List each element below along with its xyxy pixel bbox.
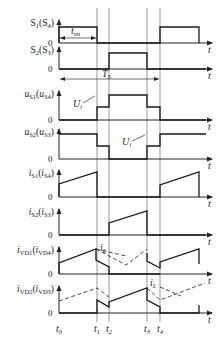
- y-axis-arrow-icon: [57, 128, 62, 134]
- y-axis-arrow-icon: [57, 285, 62, 291]
- time-marker-lines: [97, 8, 160, 322]
- time-label-t2: t2: [106, 323, 113, 335]
- il-label: iL: [150, 277, 157, 289]
- time-label-t4: t4: [157, 323, 164, 335]
- il-label: iL: [100, 242, 107, 254]
- time-axis-label: t: [208, 275, 211, 286]
- y-axis-arrow-icon: [57, 246, 62, 252]
- trace-label: iS2(iS3): [29, 207, 54, 218]
- trace-label: iS1(iS4): [29, 168, 54, 179]
- time-axis-label: t: [208, 314, 211, 325]
- waveforms: [59, 27, 206, 313]
- time-axis-label: t: [208, 70, 211, 81]
- time-axis-label: t: [208, 160, 211, 171]
- y-axis-arrow-icon: [57, 90, 62, 96]
- time-label-t1: t1: [94, 323, 100, 335]
- time-label-t3: t3: [144, 323, 151, 335]
- arrow-left-icon: [60, 36, 65, 40]
- waveform-5: [59, 211, 206, 235]
- time-axis-label: t: [208, 121, 211, 132]
- trace-label: iVD2(iVD3): [17, 284, 54, 295]
- time-label-t0: t0: [56, 323, 63, 335]
- time-axis-label: t: [208, 198, 211, 209]
- time-marker-labels: t0t1t2t3t4: [56, 323, 164, 335]
- trace-label: iVD1(iVD4): [17, 245, 54, 256]
- zero-label: 0: [48, 154, 53, 164]
- waveform-7: [59, 288, 199, 313]
- zero-label: 0: [48, 115, 53, 125]
- time-axis-label: t: [208, 44, 211, 55]
- zero-label: 0: [48, 269, 53, 279]
- waveform-6-b: [147, 249, 199, 268]
- arrow-right-icon: [154, 77, 159, 81]
- ts-label: TS: [102, 68, 112, 80]
- arrow-right-icon: [91, 36, 96, 40]
- inductor-current-dashed: [160, 287, 181, 296]
- zero-label: 0: [48, 64, 53, 74]
- time-axes: t0t0t0t0t0t0t0t0: [48, 19, 213, 325]
- ui-leader-line: [83, 96, 95, 103]
- zero-label: 0: [48, 192, 53, 202]
- ui-leader-line: [132, 135, 145, 141]
- trace-label: S2(S3): [31, 45, 54, 56]
- y-axis-arrow-icon: [57, 169, 62, 175]
- inductor-current-dashed: [59, 288, 109, 301]
- ui-label: Ui: [122, 136, 131, 148]
- arrow-left-icon: [60, 77, 65, 81]
- y-axis-arrow-icon: [57, 19, 62, 25]
- waveform-1: [59, 53, 206, 69]
- zero-label: 0: [48, 308, 53, 318]
- trace-label: S1(S4): [31, 18, 54, 29]
- y-axis-arrow-icon: [57, 46, 62, 52]
- waveform-3: [59, 134, 206, 159]
- y-axis-arrow-icon: [57, 208, 62, 214]
- time-axis-label: t: [208, 236, 211, 247]
- ui-label: Ui: [73, 98, 82, 110]
- trace-label: uS1(uS4): [24, 89, 54, 100]
- zero-label: 0: [48, 230, 53, 240]
- waveform-4: [59, 172, 199, 197]
- timing-diagram: t0t0t0t0t0t0t0t0 S1(S4)S2(S3)uS1(uS4)uS2…: [0, 0, 220, 344]
- waveform-6: [59, 249, 160, 274]
- trace-label: uS2(uS3): [24, 127, 54, 138]
